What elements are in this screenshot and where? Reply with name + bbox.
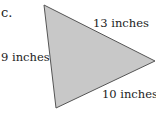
side-label-top: 13 inches	[93, 18, 149, 30]
side-label-left: 9 inches	[1, 52, 50, 64]
triangle-diagram: c. 13 inches 9 inches 10 inches	[0, 0, 156, 113]
side-label-bottom: 10 inches	[102, 89, 156, 101]
